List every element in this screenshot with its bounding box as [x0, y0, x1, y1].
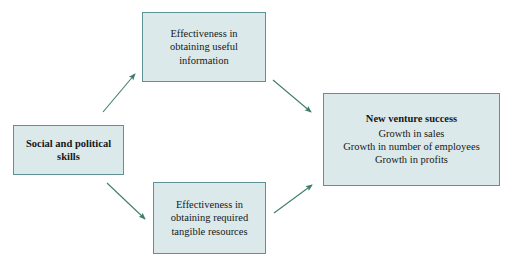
node-success-line-3: Growth in number of employees: [343, 140, 479, 153]
node-new-venture-success: New venture success Growth in sales Grow…: [323, 93, 500, 186]
node-effectiveness-tangible-resources: Effectiveness in obtaining required tang…: [153, 182, 266, 254]
arrow-skills-to-information: [103, 74, 135, 112]
arrow-skills-to-resources: [107, 183, 145, 219]
node-effectiveness-useful-information: Effectiveness in obtaining useful inform…: [142, 12, 266, 82]
flowchart-diagram: Social and political skills Effectivenes…: [0, 0, 512, 270]
node-information-line-1: Effectiveness in: [170, 27, 237, 40]
node-resources-line-3: tangible resources: [171, 225, 247, 238]
arrow-information-to-success: [273, 80, 311, 112]
node-skills-line-1: Social and political: [26, 137, 111, 150]
arrow-resources-to-success: [274, 185, 312, 213]
node-success-heading: New venture success: [366, 112, 457, 125]
node-social-and-political-skills: Social and political skills: [13, 125, 124, 175]
node-resources-line-2: obtaining required: [171, 211, 248, 224]
node-success-line-2: Growth in sales: [379, 127, 445, 140]
node-skills-line-2: skills: [57, 150, 80, 163]
node-information-line-3: information: [179, 54, 229, 67]
node-success-line-4: Growth in profits: [375, 153, 448, 166]
node-resources-line-1: Effectiveness in: [176, 198, 243, 211]
node-information-line-2: obtaining useful: [170, 40, 238, 53]
